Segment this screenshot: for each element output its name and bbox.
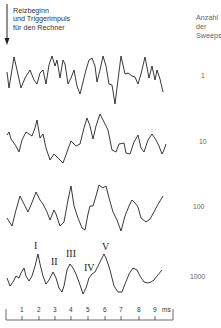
header-line-1: Anzahl bbox=[196, 13, 221, 22]
arrow-down-icon bbox=[5, 4, 10, 45]
tick-label-6: 6 bbox=[103, 306, 107, 313]
figure-canvas bbox=[0, 0, 221, 328]
tick-label-5: 5 bbox=[86, 306, 90, 313]
stimulus-caption: Reizbeginn und Triggerimpuls für den Rec… bbox=[13, 7, 70, 32]
axis-unit: ms bbox=[162, 306, 171, 313]
trace-1-sweep bbox=[7, 56, 163, 104]
tick-label-9: 9 bbox=[153, 306, 157, 313]
header-line-2: der bbox=[196, 22, 221, 31]
sweep-count-100: 100 bbox=[193, 203, 204, 210]
tick-label-1: 1 bbox=[20, 306, 24, 313]
trace-100-sweeps bbox=[7, 185, 163, 231]
wave-label-i: I bbox=[34, 240, 37, 251]
wave-label-iii: III bbox=[66, 248, 76, 259]
tick-label-2: 2 bbox=[37, 306, 41, 313]
tick-label-8: 8 bbox=[137, 306, 141, 313]
header-line-3: Sweeps bbox=[196, 31, 221, 40]
sweep-count-1: 1 bbox=[201, 72, 205, 79]
tick-label-7: 7 bbox=[119, 306, 123, 313]
wave-label-iv: IV bbox=[84, 262, 95, 273]
trace-1000-sweeps bbox=[7, 254, 162, 294]
sweep-count-10: 10 bbox=[199, 138, 207, 145]
sweeps-column-header: Anzahl der Sweeps bbox=[196, 13, 221, 40]
caption-line-3: für den Rechner bbox=[13, 24, 70, 32]
sweep-count-1000: 1000 bbox=[190, 273, 205, 280]
wave-label-v: V bbox=[102, 241, 109, 252]
trace-10-sweeps bbox=[7, 114, 166, 163]
wave-label-ii: II bbox=[51, 256, 58, 267]
tick-label-4: 4 bbox=[69, 306, 73, 313]
tick-label-3: 3 bbox=[53, 306, 57, 313]
